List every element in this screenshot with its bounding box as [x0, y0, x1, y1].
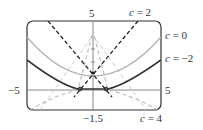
legend-c4: c = 4	[140, 113, 162, 124]
legend-c0: c = 0	[165, 30, 187, 41]
curve-c4	[30, 31, 158, 110]
curve-c-neg2	[27, 60, 161, 89]
curve-c2-right	[74, 21, 138, 97]
x-max-label: 5	[165, 85, 171, 96]
y-max-label: 5	[89, 8, 95, 19]
legend-c2: c = 2	[129, 7, 151, 18]
y-min-label: −1.5	[83, 113, 103, 124]
curve-c0	[27, 37, 161, 76]
chart-canvas	[0, 0, 203, 130]
legend-c-neg2: c = −2	[165, 53, 193, 64]
point-marker	[91, 71, 94, 74]
x-min-label: −5	[8, 85, 20, 96]
plot-frame	[27, 21, 161, 110]
